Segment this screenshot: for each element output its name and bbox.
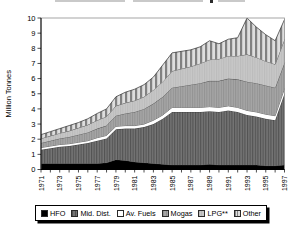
legend-label: Av. Fuels	[126, 209, 156, 218]
x-tick-label: 1985	[169, 175, 176, 191]
legend-label: LPG**	[207, 209, 227, 218]
y-tick-label: 1	[31, 150, 35, 159]
x-tick-label: 1989	[206, 175, 213, 191]
legend-item-mogas: Mogas	[162, 209, 193, 218]
legend-label: Mogas	[171, 209, 193, 218]
legend-swatch-icon	[198, 210, 205, 217]
y-tick-label: 9	[31, 29, 35, 38]
legend-swatch-icon	[117, 210, 124, 217]
legend-swatch-icon	[41, 210, 48, 217]
x-tick-label: 1977	[94, 175, 101, 191]
y-tick-label: 0	[31, 165, 35, 174]
y-tick-label: 3	[31, 120, 35, 129]
y-tick-label: 8	[31, 44, 35, 53]
legend-item-hfo: HFO	[41, 209, 65, 218]
x-tick-label: 1973	[56, 175, 63, 191]
y-axis-title: Million Tonnes	[4, 70, 13, 118]
legend-item-other: Other	[234, 209, 261, 218]
stacked-area-chart: 0123456789101971197319751977197919811983…	[0, 0, 292, 230]
x-tick-label: 1983	[150, 175, 157, 191]
x-tick-label: 1987	[187, 175, 194, 191]
legend-item-lpg: LPG**	[198, 209, 227, 218]
legend-item-mid-dist: Mid. Dist.	[71, 209, 110, 218]
legend-swatch-icon	[71, 210, 78, 217]
y-tick-label: 10	[27, 14, 35, 23]
chart-figure: 0123456789101971197319751977197919811983…	[0, 0, 292, 230]
x-tick-label: 1981	[131, 175, 138, 191]
legend-label: Mid. Dist.	[80, 209, 110, 218]
y-tick-label: 7	[31, 59, 35, 68]
legend-swatch-icon	[162, 210, 169, 217]
y-tick-label: 6	[31, 74, 35, 83]
x-tick-label: 1995	[262, 175, 269, 191]
y-tick-label: 2	[31, 135, 35, 144]
x-tick-label: 1971	[38, 175, 45, 191]
y-tick-label: 4	[31, 105, 35, 114]
legend-label: Other	[243, 209, 261, 218]
legend-label: HFO	[50, 209, 65, 218]
legend-item-av-fuels: Av. Fuels	[117, 209, 156, 218]
x-tick-label: 1975	[75, 175, 82, 191]
x-tick-label: 1991	[225, 175, 232, 191]
x-tick-label: 1997	[281, 175, 288, 191]
x-tick-label: 1993	[244, 175, 251, 191]
chart-legend: HFOMid. Dist.Av. FuelsMogasLPG**Other	[35, 205, 267, 221]
x-tick-label: 1979	[113, 175, 120, 191]
legend-swatch-icon	[234, 210, 241, 217]
y-tick-label: 5	[31, 89, 35, 98]
